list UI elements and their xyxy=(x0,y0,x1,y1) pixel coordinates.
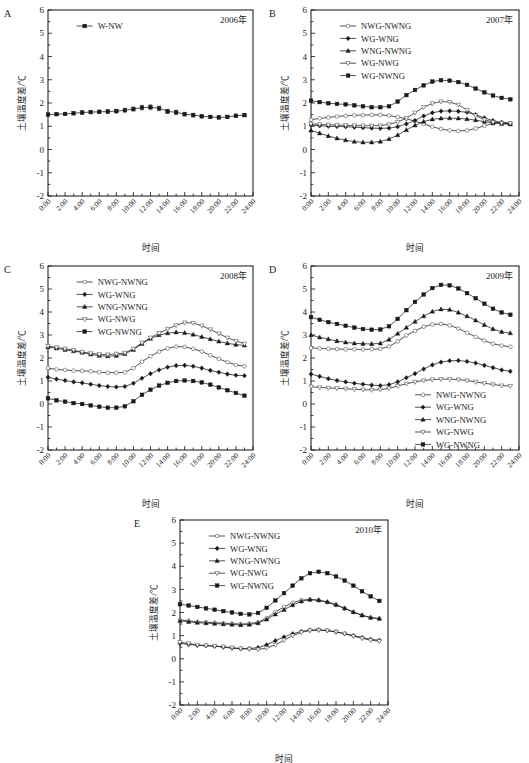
data-marker xyxy=(243,394,247,398)
chart-panel-b: -2-101234560:002:004:006:008:0010:0012:0… xyxy=(265,0,529,252)
data-marker xyxy=(474,296,478,300)
data-marker xyxy=(208,115,212,119)
data-marker xyxy=(378,105,382,109)
data-marker xyxy=(413,300,417,304)
y-tick-label: -1 xyxy=(37,168,45,178)
data-marker xyxy=(132,107,136,111)
data-marker xyxy=(465,331,469,335)
data-marker xyxy=(387,114,391,118)
chart-svg-A: -2-101234560:002:004:006:008:0010:0012:0… xyxy=(0,0,265,252)
data-marker xyxy=(326,320,330,324)
x-tick-label: 10:00 xyxy=(384,451,402,469)
data-marker xyxy=(474,335,478,339)
data-marker xyxy=(344,103,348,107)
data-marker xyxy=(396,317,400,321)
data-marker xyxy=(234,363,238,367)
data-marker xyxy=(239,612,243,616)
data-marker xyxy=(191,379,195,383)
x-tick-label: 16:00 xyxy=(171,451,189,469)
panel-year-label: 2008年 xyxy=(220,270,247,281)
data-marker xyxy=(213,608,217,612)
data-marker xyxy=(318,318,322,322)
y-tick-label: 3 xyxy=(303,75,308,85)
data-marker xyxy=(157,350,161,354)
y-axis-title: 土壤温度差/℃ xyxy=(279,75,290,131)
data-marker xyxy=(106,371,110,375)
data-marker xyxy=(140,393,144,397)
data-marker xyxy=(215,534,219,538)
y-tick-label: 0 xyxy=(40,145,45,155)
data-marker xyxy=(500,96,504,100)
data-marker xyxy=(97,370,101,374)
y-tick-label: 3 xyxy=(40,330,45,340)
data-marker xyxy=(140,106,144,110)
y-axis-title: 土壤温度差/℃ xyxy=(16,330,27,386)
y-tick-label: 2 xyxy=(40,353,45,363)
data-marker xyxy=(243,364,247,368)
legend-label: WG-NWG xyxy=(361,58,399,68)
data-marker xyxy=(178,602,182,606)
data-marker xyxy=(335,102,339,106)
legend-label: WNG-NWNG xyxy=(98,302,148,312)
data-marker xyxy=(114,406,118,410)
panel-letter: C xyxy=(4,264,11,275)
y-tick-label: 4 xyxy=(40,52,45,62)
data-marker xyxy=(346,74,350,78)
data-marker xyxy=(318,100,322,104)
data-marker xyxy=(352,113,356,117)
x-tick-label: 20:00 xyxy=(205,197,223,215)
data-marker xyxy=(55,398,59,402)
panel-letter: A xyxy=(4,8,12,19)
legend-label: NWG-NWNG xyxy=(230,531,280,541)
data-marker xyxy=(230,611,234,615)
data-marker xyxy=(325,571,329,575)
x-tick-label: 4:00 xyxy=(334,197,350,213)
data-marker xyxy=(132,366,136,370)
data-marker xyxy=(282,591,286,595)
legend-label: WG-WNG xyxy=(436,402,474,412)
data-marker xyxy=(413,329,417,333)
y-tick-label: 5 xyxy=(172,538,177,548)
panel-year-label: 2006年 xyxy=(220,14,247,25)
data-marker xyxy=(72,111,76,115)
data-marker xyxy=(247,613,251,617)
data-marker xyxy=(140,360,144,364)
legend-label: WG-NWG xyxy=(98,314,136,324)
x-tick-label: 8:00 xyxy=(105,197,121,213)
data-marker xyxy=(378,347,382,351)
data-marker xyxy=(361,104,365,108)
y-tick-label: 2 xyxy=(303,353,308,363)
y-tick-label: 2 xyxy=(172,608,177,618)
data-marker xyxy=(106,406,110,410)
x-tick-label: 24:00 xyxy=(505,197,523,215)
chart-svg-D: -2-101234560:002:004:006:008:0010:0012:0… xyxy=(265,252,529,508)
x-tick-label: 18:00 xyxy=(322,706,340,724)
data-marker xyxy=(500,311,504,315)
data-marker xyxy=(183,345,187,349)
x-axis-title: 时间 xyxy=(406,242,424,253)
data-marker xyxy=(55,112,59,116)
legend-label: NWG-NWNG xyxy=(98,277,148,287)
data-marker xyxy=(465,291,469,295)
data-marker xyxy=(174,110,178,114)
plot-frame xyxy=(48,10,253,196)
data-marker xyxy=(55,368,59,372)
y-tick-label: 4 xyxy=(303,52,308,62)
data-marker xyxy=(369,594,373,598)
data-marker xyxy=(309,346,313,350)
y-tick-label: 4 xyxy=(172,561,177,571)
data-marker xyxy=(204,606,208,610)
data-marker xyxy=(404,93,408,97)
x-tick-label: 8:00 xyxy=(105,451,121,467)
x-tick-label: 8:00 xyxy=(238,706,254,722)
data-marker xyxy=(404,334,408,338)
x-tick-label: 22:00 xyxy=(488,197,506,215)
x-tick-label: 4:00 xyxy=(203,706,219,722)
data-marker xyxy=(234,114,238,118)
data-marker xyxy=(80,369,84,373)
data-marker xyxy=(335,115,339,119)
y-axis-title: 土壤温度差/℃ xyxy=(279,330,290,386)
data-marker xyxy=(430,286,434,290)
data-marker xyxy=(166,110,170,114)
y-tick-label: 4 xyxy=(40,307,45,317)
